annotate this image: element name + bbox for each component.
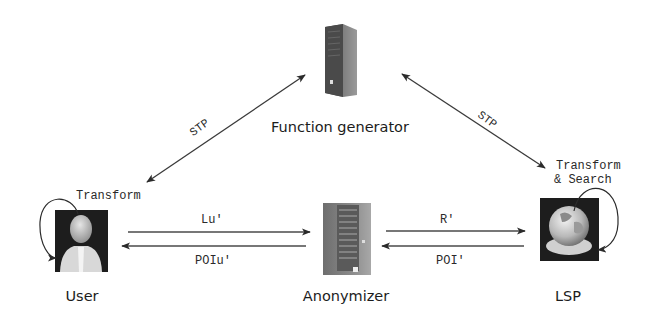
r-label: R': [440, 213, 454, 227]
lsp-transform-label: Transform: [556, 159, 621, 173]
function-generator-label: Function generator: [271, 119, 409, 135]
lsp-label: LSP: [555, 288, 581, 304]
user-label: User: [65, 288, 98, 304]
poi-label: POI': [436, 254, 465, 268]
lsp-search-label: & Search: [554, 173, 612, 187]
lsp-globe-icon: [540, 198, 599, 261]
user-transform-label: Transform: [76, 189, 141, 203]
stp-arrow-function-generator-lsp: [402, 74, 545, 168]
poiu-label: POIu': [195, 254, 231, 268]
diagram-canvas: Function generator User Anonymizer LSP S…: [0, 0, 653, 321]
function-generator-server-icon: [325, 24, 357, 97]
lu-label: Lu': [201, 213, 223, 227]
anonymizer-label: Anonymizer: [303, 288, 389, 304]
anonymizer-server-icon: [323, 203, 371, 275]
user-avatar-icon: [55, 210, 108, 272]
